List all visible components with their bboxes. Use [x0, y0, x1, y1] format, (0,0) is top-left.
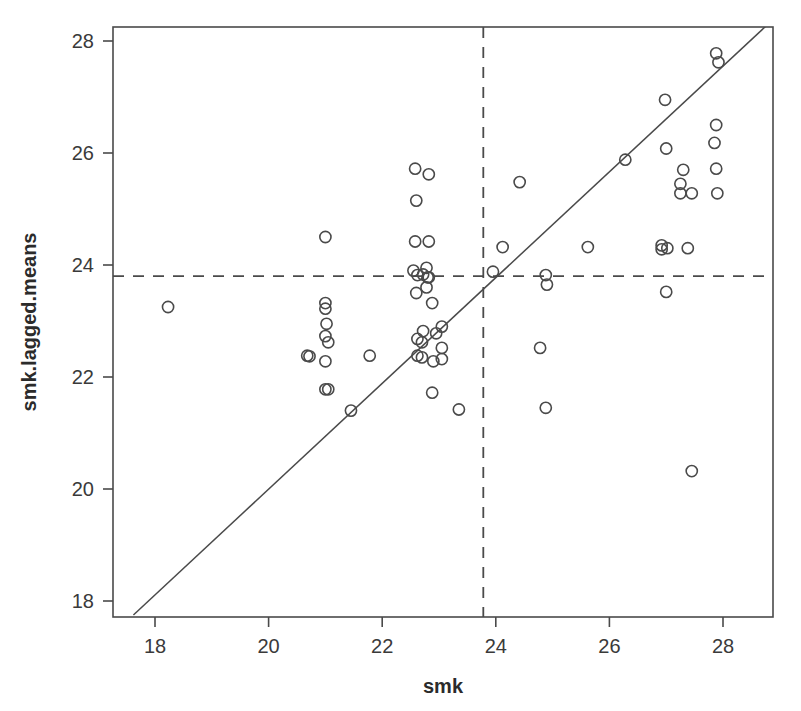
data-point: [411, 287, 422, 298]
data-point: [320, 231, 331, 242]
x-axis-ticks: [155, 617, 723, 627]
y-axis-ticks: [103, 41, 113, 601]
data-point: [497, 241, 508, 252]
data-point: [712, 188, 723, 199]
plot-frame: [113, 27, 773, 617]
data-point: [162, 301, 173, 312]
data-point: [682, 243, 693, 254]
y-tick-label: 26: [72, 142, 94, 164]
data-point: [661, 286, 672, 297]
data-point: [410, 236, 421, 247]
x-tick-label: 22: [371, 635, 393, 657]
data-point: [686, 465, 697, 476]
data-point: [659, 94, 670, 105]
data-point: [436, 342, 447, 353]
data-point: [661, 143, 672, 154]
data-point: [418, 325, 429, 336]
data-point: [711, 119, 722, 130]
data-point: [711, 163, 722, 174]
data-point: [345, 405, 356, 416]
data-point: [582, 241, 593, 252]
data-points-layer: [162, 48, 724, 477]
data-point: [514, 177, 525, 188]
x-tick-label: 28: [712, 635, 734, 657]
y-tick-label: 22: [72, 366, 94, 388]
x-tick-labels: 18 20 22 24 26 28: [144, 635, 734, 657]
data-point: [427, 387, 438, 398]
y-tick-labels: 28 26 24 22 20 18: [72, 30, 94, 612]
y-axis-title: smk.lagged.means: [18, 233, 40, 412]
data-point: [678, 164, 689, 175]
y-tick-label: 28: [72, 30, 94, 52]
data-point: [427, 297, 438, 308]
data-point: [535, 342, 546, 353]
data-point: [364, 350, 375, 361]
data-point: [709, 137, 720, 148]
x-tick-label: 24: [485, 635, 507, 657]
data-point: [540, 402, 551, 413]
x-tick-label: 18: [144, 635, 166, 657]
x-tick-label: 26: [598, 635, 620, 657]
x-axis-title: smk: [423, 675, 464, 697]
y-tick-label: 18: [72, 590, 94, 612]
fit-line: [133, 16, 777, 615]
data-point: [320, 356, 331, 367]
data-point: [423, 236, 434, 247]
data-point: [686, 188, 697, 199]
y-tick-label: 20: [72, 478, 94, 500]
scatter-plot-canvas: 18 20 22 24 26 28 28 26 24 22 20 18 smk …: [0, 0, 801, 711]
data-point: [321, 318, 332, 329]
chart-figure: 18 20 22 24 26 28 28 26 24 22 20 18 smk …: [0, 0, 801, 711]
data-point: [487, 266, 498, 277]
data-point: [410, 163, 421, 174]
data-point: [453, 404, 464, 415]
x-tick-label: 20: [257, 635, 279, 657]
data-point: [423, 169, 434, 180]
y-tick-label: 24: [72, 254, 94, 276]
data-point: [411, 195, 422, 206]
